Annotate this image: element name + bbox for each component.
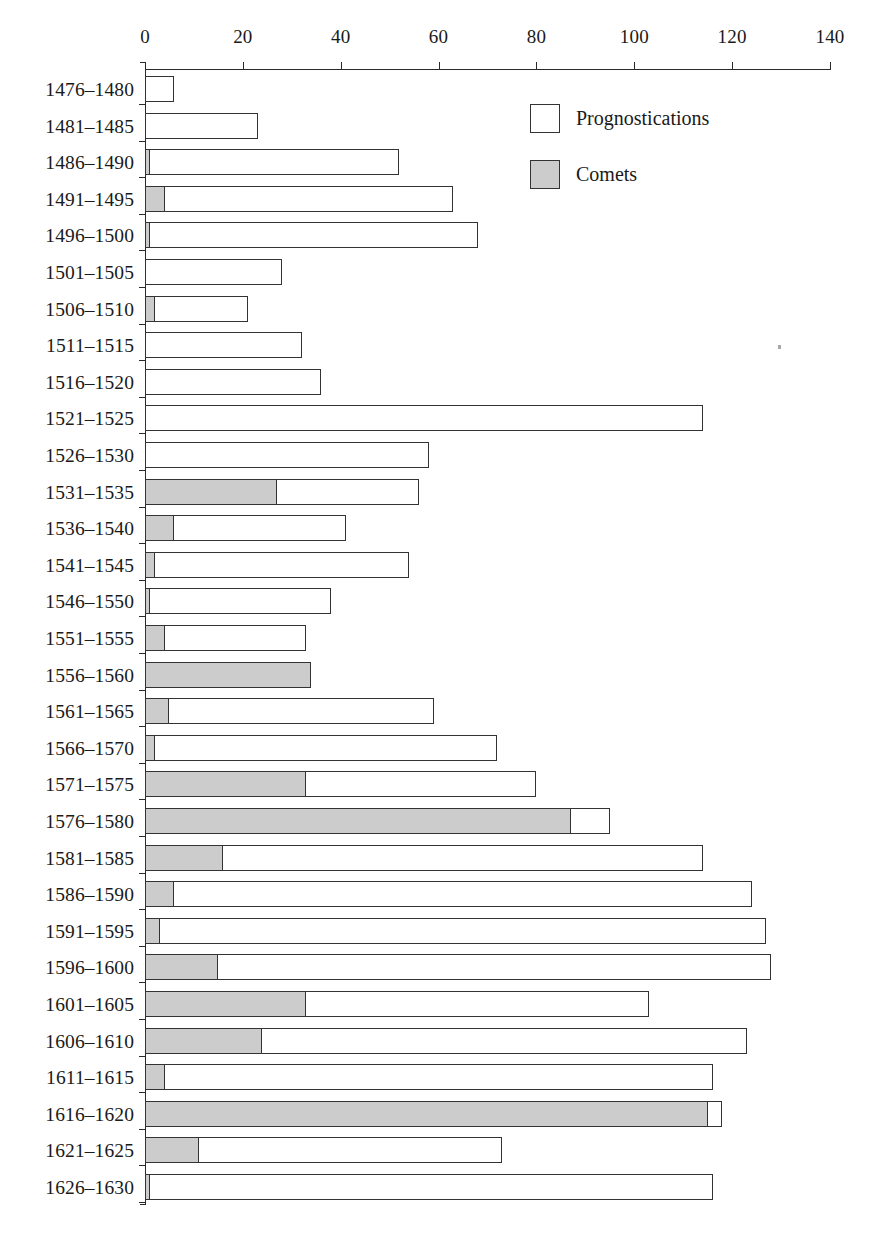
bar-prognostications <box>145 954 771 980</box>
chart-row: 1586–1590 <box>0 878 876 915</box>
legend-label-prognostications: Prognostications <box>576 107 709 130</box>
chart-row: 1531–1535 <box>0 476 876 513</box>
y-axis-category-label: 1621–1625 <box>45 1140 134 1162</box>
chart-row: 1526–1530 <box>0 439 876 476</box>
bar-prognostications <box>145 149 399 175</box>
bar-prognostications <box>145 698 434 724</box>
y-axis-tick-mark <box>139 653 146 654</box>
bar-prognostications <box>145 332 302 358</box>
y-axis-tick-mark <box>139 250 146 251</box>
x-axis-tick-mark <box>830 62 831 70</box>
bar-comets <box>145 1064 165 1090</box>
y-axis-tick-mark <box>139 1202 146 1203</box>
bar-comets <box>145 479 277 505</box>
legend-swatch-comets-icon <box>530 160 560 189</box>
bar-comets <box>145 735 155 761</box>
y-axis-tick-mark <box>139 360 146 361</box>
y-axis-category-label: 1561–1565 <box>45 701 134 723</box>
y-axis-category-label: 1506–1510 <box>45 299 134 321</box>
chart-row: 1596–1600 <box>0 951 876 988</box>
bar-comets <box>145 881 174 907</box>
y-axis-category-label: 1526–1530 <box>45 445 134 467</box>
chart-row: 1511–1515 <box>0 329 876 366</box>
y-axis-tick-mark <box>139 1092 146 1093</box>
y-axis-tick-mark <box>139 104 146 105</box>
bar-prognostications <box>145 625 306 651</box>
y-axis-tick-mark <box>139 1056 146 1057</box>
chart-row: 1491–1495 <box>0 183 876 220</box>
y-axis-tick-mark <box>139 141 146 142</box>
chart-row: 1546–1550 <box>0 585 876 622</box>
y-axis-tick-mark <box>139 214 146 215</box>
y-axis-category-label: 1481–1485 <box>45 116 134 138</box>
chart-row: 1601–1605 <box>0 988 876 1025</box>
y-axis-tick-mark <box>139 909 146 910</box>
bar-prognostications <box>145 515 346 541</box>
chart-row: 1561–1565 <box>0 695 876 732</box>
chart-row: 1581–1585 <box>0 842 876 879</box>
x-axis-tick-mark <box>634 62 635 70</box>
bar-comets <box>145 1137 199 1163</box>
bar-comets <box>145 186 165 212</box>
chart-row: 1591–1595 <box>0 915 876 952</box>
y-axis-tick-mark <box>139 397 146 398</box>
y-axis-category-label: 1606–1610 <box>45 1031 134 1053</box>
chart-row: 1521–1525 <box>0 402 876 439</box>
chart-row: 1486–1490 <box>0 146 876 183</box>
bar-prognostications <box>145 735 497 761</box>
bar-comets <box>145 662 311 688</box>
y-axis-tick-mark <box>139 433 146 434</box>
y-axis-category-label: 1571–1575 <box>45 774 134 796</box>
bar-prognostications <box>145 405 703 431</box>
bar-prognostications <box>145 1064 713 1090</box>
bar-prognostications <box>145 113 258 139</box>
y-axis-tick-mark <box>139 1129 146 1130</box>
y-axis-category-label: 1566–1570 <box>45 738 134 760</box>
y-axis-category-label: 1531–1535 <box>45 482 134 504</box>
bar-comets <box>145 1101 708 1127</box>
bar-prognostications <box>145 845 703 871</box>
x-axis-tick-mark <box>341 62 342 70</box>
y-axis-category-label: 1546–1550 <box>45 591 134 613</box>
y-axis-tick-mark <box>139 1165 146 1166</box>
legend-item-prognostications: Prognostications <box>530 103 709 133</box>
bar-comets <box>145 918 160 944</box>
y-axis-category-label: 1626–1630 <box>45 1177 134 1199</box>
chart-row: 1481–1485 <box>0 110 876 147</box>
chart-row: 1571–1575 <box>0 768 876 805</box>
chart-row: 1516–1520 <box>0 366 876 403</box>
chart-row: 1621–1625 <box>0 1134 876 1171</box>
x-axis-tick-mark <box>439 62 440 70</box>
y-axis-category-label: 1501–1505 <box>45 262 134 284</box>
bar-comets <box>145 296 155 322</box>
bar-rows: 1476–14801481–14851486–14901491–14951496… <box>0 0 876 1235</box>
y-axis-tick-mark <box>139 543 146 544</box>
chart-row: 1506–1510 <box>0 293 876 330</box>
scan-artifact-speck <box>778 345 781 349</box>
bar-comets <box>145 954 218 980</box>
y-axis-tick-mark <box>139 690 146 691</box>
y-axis-category-label: 1536–1540 <box>45 518 134 540</box>
bar-prognostications <box>145 222 478 248</box>
chart-row: 1536–1540 <box>0 512 876 549</box>
bar-comets <box>145 1028 262 1054</box>
bar-comets <box>145 149 150 175</box>
y-axis-category-label: 1576–1580 <box>45 811 134 833</box>
chart-row: 1541–1545 <box>0 549 876 586</box>
bar-prognostications <box>145 259 282 285</box>
bar-prognostications <box>145 1174 713 1200</box>
legend-label-comets: Comets <box>576 163 637 186</box>
bar-comets <box>145 588 150 614</box>
bar-prognostications <box>145 296 248 322</box>
y-axis-category-label: 1611–1615 <box>46 1067 134 1089</box>
y-axis-category-label: 1551–1555 <box>45 628 134 650</box>
bar-comets <box>145 698 169 724</box>
x-axis-tick-mark <box>145 62 146 70</box>
bar-comets <box>145 552 155 578</box>
chart-row: 1496–1500 <box>0 219 876 256</box>
chart-row: 1566–1570 <box>0 732 876 769</box>
chart-row: 1616–1620 <box>0 1098 876 1135</box>
bar-comets <box>145 625 165 651</box>
y-axis-tick-mark <box>139 763 146 764</box>
bar-chart: 020406080100120140 1476–14801481–1485148… <box>0 0 876 1235</box>
